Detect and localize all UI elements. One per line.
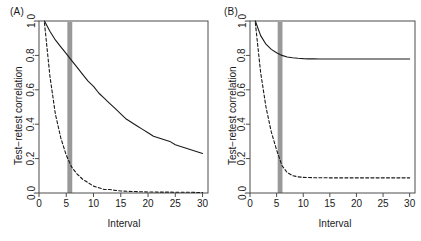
panel-a-y-axis-label: Test−retest correlation [13, 66, 24, 165]
plot-frame [250, 21, 415, 193]
x-tick-label: 30 [404, 198, 416, 209]
y-tick-label: 0.0 [237, 186, 248, 200]
figure-two-panel-line-charts: (A) 0510152025300.00.20.40.60.81.0 Test−… [0, 0, 421, 241]
y-tick-label: 0.8 [26, 48, 37, 62]
x-tick-label: 20 [351, 198, 363, 209]
x-tick-label: 15 [115, 198, 127, 209]
y-tick-label: 0.2 [26, 151, 37, 165]
y-tick-label: 0.4 [237, 117, 248, 131]
x-tick-label: 30 [197, 198, 209, 209]
x-tick-label: 5 [274, 198, 280, 209]
x-tick-label: 5 [63, 198, 69, 209]
panel-a-x-axis-label: Interval [39, 218, 209, 229]
panel-a-plot: 0510152025300.00.20.40.60.81.0 [0, 0, 211, 241]
x-tick-label: 25 [170, 198, 182, 209]
panel-a: (A) 0510152025300.00.20.40.60.81.0 Test−… [0, 0, 211, 241]
x-tick-label: 10 [88, 198, 100, 209]
panel-b-x-axis-label: Interval [250, 218, 420, 229]
panel-b-plot: 0510152025300.00.20.40.60.81.0 [211, 0, 421, 241]
y-tick-label: 1.0 [237, 14, 248, 28]
grey-interval-band [278, 22, 283, 193]
y-tick-label: 0.0 [26, 186, 37, 200]
x-tick-label: 25 [378, 198, 390, 209]
x-tick-label: 0 [247, 198, 253, 209]
plot-frame [39, 21, 208, 193]
x-tick-label: 0 [36, 198, 42, 209]
y-tick-label: 0.4 [26, 117, 37, 131]
y-tick-label: 0.8 [237, 48, 248, 62]
y-tick-label: 0.2 [237, 151, 248, 165]
y-tick-label: 0.6 [26, 82, 37, 96]
panel-b: (B) 0510152025300.00.20.40.60.81.0 Test−… [211, 0, 421, 241]
x-tick-label: 20 [142, 198, 154, 209]
x-tick-label: 15 [324, 198, 336, 209]
y-tick-label: 0.6 [237, 82, 248, 96]
panel-b-y-axis-label: Test−retest correlation [227, 66, 238, 165]
y-tick-label: 1.0 [26, 14, 37, 28]
x-tick-label: 10 [298, 198, 310, 209]
